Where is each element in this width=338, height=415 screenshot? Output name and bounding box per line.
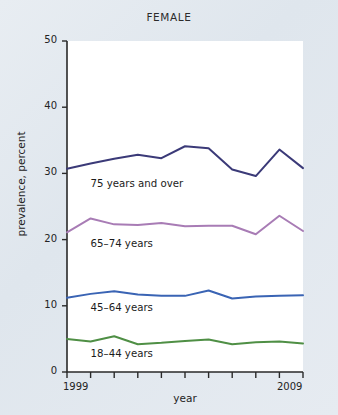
chart-figure: FEMALE 01020304050 19992009 75 years and…: [0, 0, 338, 415]
tick-marks: [62, 41, 303, 378]
series-label-2: 65–74 years: [91, 238, 153, 249]
y-tick-label: 10: [31, 299, 57, 310]
y-tick-label: 0: [31, 365, 57, 376]
chart-canvas: [0, 0, 338, 415]
series-label-3: 45–64 years: [91, 302, 153, 313]
y-axis-label: prevalence, percent: [15, 114, 27, 254]
x-tick-label: 1999: [63, 381, 88, 392]
y-tick-label: 40: [31, 100, 57, 111]
y-tick-label: 20: [31, 233, 57, 244]
series-line-2: [67, 216, 303, 235]
series-line-3: [67, 291, 303, 299]
x-tick-label: 2009: [277, 381, 302, 392]
x-axis-label: year: [67, 392, 303, 404]
y-tick-label: 50: [31, 34, 57, 45]
y-tick-label: 30: [31, 166, 57, 177]
series-label-1: 75 years and over: [91, 178, 184, 189]
series-line-1: [67, 146, 303, 176]
series-line-4: [67, 336, 303, 344]
series-label-4: 18–44 years: [91, 348, 153, 359]
axis-lines: [67, 41, 303, 372]
